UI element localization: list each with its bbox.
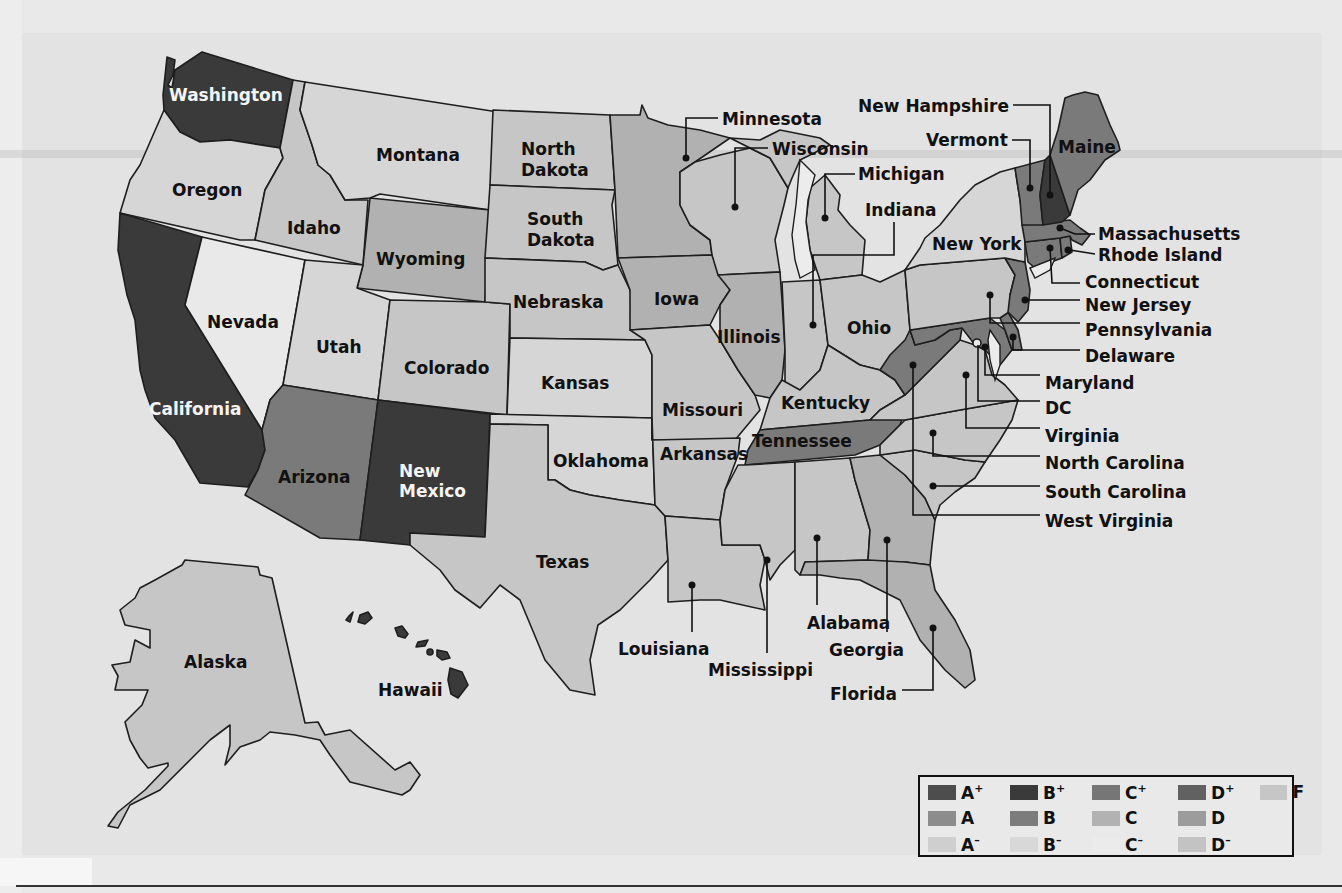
- legend-label: F: [1292, 782, 1304, 802]
- callout-label-vermont: Vermont: [926, 130, 1008, 150]
- legend-item-C: C: [1092, 805, 1178, 831]
- state-label-illinois: Illinois: [717, 327, 781, 347]
- state-label-texas: Texas: [536, 552, 589, 572]
- callout-label-wisconsin: Wisconsin: [772, 139, 869, 159]
- state-label-south-dakota: Dakota: [527, 230, 595, 250]
- leader-dot-icon: [764, 557, 771, 564]
- legend-swatch: [1092, 837, 1120, 852]
- callout-label-alabama: Alabama: [807, 613, 890, 633]
- legend-empty: [1260, 831, 1304, 857]
- callout-label-dc: DC: [1045, 398, 1072, 418]
- legend-item-Aminus: A–: [928, 831, 1010, 857]
- legend-item-Aplus: A+: [928, 779, 1010, 805]
- legend-item-Bplus: B+: [1010, 779, 1092, 805]
- callout-label-indiana: Indiana: [865, 200, 936, 220]
- state-alaska[interactable]: [108, 560, 420, 828]
- legend-label: A–: [961, 834, 980, 855]
- legend-swatch: [1178, 837, 1206, 852]
- legend-item-D: D: [1178, 805, 1260, 831]
- leader-dot-icon: [814, 535, 821, 542]
- legend-item-Bminus: B–: [1010, 831, 1092, 857]
- legend-swatch: [1178, 785, 1206, 800]
- callout-label-massachusetts: Massachusetts: [1098, 224, 1240, 244]
- us-grade-map: WashingtonOregonCaliforniaIdahoNevadaMon…: [0, 0, 1342, 893]
- callout-label-north-carolina: North Carolina: [1045, 453, 1185, 473]
- callout-label-connecticut: Connecticut: [1085, 272, 1199, 292]
- state-label-ohio: Ohio: [847, 318, 891, 338]
- state-label-arizona: Arizona: [278, 467, 351, 487]
- state-label-nebraska: Nebraska: [513, 292, 604, 312]
- leader-dot-icon: [732, 204, 739, 211]
- state-label-oregon: Oregon: [172, 180, 242, 200]
- legend-item-Dminus: D–: [1178, 831, 1260, 857]
- leader-dot-icon: [683, 155, 690, 162]
- state-label-nevada: Nevada: [207, 312, 279, 332]
- leader-line-delaware: [1013, 337, 1080, 350]
- state-label-montana: Montana: [376, 145, 460, 165]
- legend-swatch: [1010, 785, 1038, 800]
- leader-dot-icon: [689, 582, 696, 589]
- leader-dot-icon: [810, 322, 817, 329]
- legend-label: B: [1043, 808, 1056, 828]
- callout-label-new-hampshire: New Hampshire: [858, 96, 1009, 116]
- legend-label: C: [1125, 808, 1137, 828]
- callout-label-south-carolina: South Carolina: [1045, 482, 1186, 502]
- callout-label-georgia: Georgia: [829, 640, 904, 660]
- leader-dot-icon: [1065, 247, 1072, 254]
- leader-dot-icon: [822, 215, 829, 222]
- leader-dot-icon: [982, 344, 989, 351]
- leader-dot-icon: [910, 362, 917, 369]
- callout-label-delaware: Delaware: [1085, 346, 1175, 366]
- leader-dot-icon: [930, 430, 937, 437]
- legend-swatch: [1092, 811, 1120, 826]
- callout-label-pennsylvania: Pennsylvania: [1085, 320, 1212, 340]
- state-label-missouri: Missouri: [662, 400, 743, 420]
- leader-dot-icon: [930, 625, 937, 632]
- legend-swatch: [1010, 811, 1038, 826]
- legend-label: B+: [1043, 782, 1065, 803]
- legend-swatch: [928, 811, 956, 826]
- leader-dot-icon: [1022, 297, 1029, 304]
- legend-item-B: B: [1010, 805, 1092, 831]
- state-label-south-dakota: South: [527, 209, 583, 229]
- state-label-north-dakota: North: [521, 139, 576, 159]
- state-label-new-mexico: New: [399, 461, 441, 481]
- legend-label: A+: [961, 782, 983, 803]
- state-label-new-mexico: Mexico: [399, 481, 466, 501]
- leader-dot-icon: [1027, 185, 1034, 192]
- legend-label: C+: [1125, 782, 1147, 803]
- legend-swatch: [928, 785, 956, 800]
- leader-dot-icon: [1047, 245, 1054, 252]
- state-rhode-island[interactable]: [1060, 236, 1072, 258]
- legend-swatch: [1260, 785, 1287, 800]
- legend-label: D+: [1211, 782, 1234, 803]
- state-label-alaska: Alaska: [184, 652, 247, 672]
- state-dc[interactable]: [973, 339, 981, 347]
- grade-legend: A+B+C+D+FABCDA–B–C–D–: [918, 775, 1294, 857]
- callout-label-mississippi: Mississippi: [708, 660, 813, 680]
- legend-swatch: [928, 837, 956, 852]
- legend-swatch: [1092, 785, 1120, 800]
- leader-dot-icon: [963, 372, 970, 379]
- callout-label-maryland: Maryland: [1045, 373, 1134, 393]
- state-label-new-york: New York: [932, 234, 1022, 254]
- state-label-idaho: Idaho: [287, 218, 341, 238]
- leader-dot-icon: [930, 483, 937, 490]
- state-label-utah: Utah: [316, 337, 362, 357]
- state-label-washington: Washington: [169, 85, 283, 105]
- legend-item-Cminus: C–: [1092, 831, 1178, 857]
- legend-item-A: A: [928, 805, 1010, 831]
- state-label-kentucky: Kentucky: [781, 393, 870, 413]
- callout-label-new-jersey: New Jersey: [1085, 295, 1191, 315]
- callout-label-michigan: Michigan: [858, 164, 945, 184]
- leader-dot-icon: [1010, 334, 1017, 341]
- callout-label-louisiana: Louisiana: [618, 639, 709, 659]
- state-label-arkansas: Arkansas: [660, 444, 748, 464]
- state-pennsylvania[interactable]: [905, 258, 1015, 330]
- leader-dot-icon: [987, 292, 994, 299]
- callout-label-virginia: Virginia: [1045, 426, 1119, 446]
- callout-label-west-virginia: West Virginia: [1045, 511, 1173, 531]
- leader-line-rhode-island: [1070, 250, 1095, 254]
- state-label-wyoming: Wyoming: [376, 249, 465, 269]
- legend-label: A: [961, 808, 974, 828]
